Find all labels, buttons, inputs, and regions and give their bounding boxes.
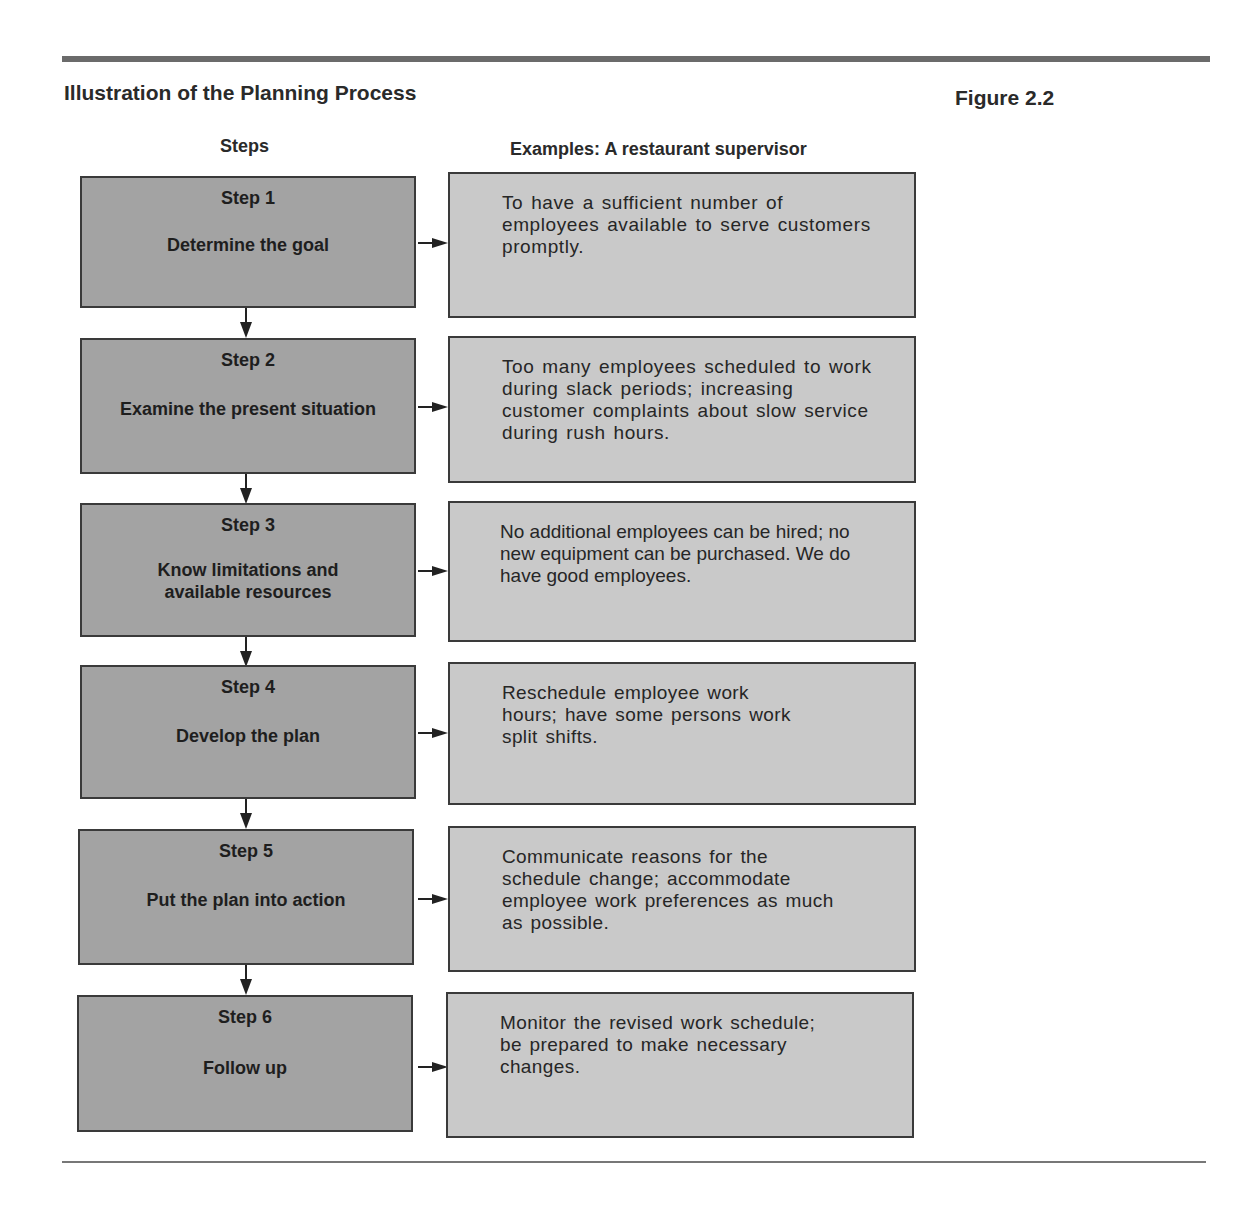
example-text: Communicate reasons for the schedule cha…: [502, 846, 842, 934]
step-label: Put the plan into action: [80, 889, 412, 911]
example-box-1: To have a sufficient number of employees…: [448, 172, 916, 318]
example-box-4: Reschedule employee work hours; have som…: [448, 662, 916, 805]
example-box-6: Monitor the revised work schedule; be pr…: [446, 992, 914, 1138]
bottom-rule: [62, 1161, 1206, 1163]
step-number: Step 3: [82, 515, 414, 536]
example-box-3: No additional employees can be hired; no…: [448, 501, 916, 642]
example-box-2: Too many employees scheduled to work dur…: [448, 336, 916, 483]
arrow-right-icon: [418, 728, 448, 738]
step-label: Determine the goal: [82, 234, 414, 256]
arrow-down-icon: [240, 474, 252, 504]
arrow-right-icon: [418, 238, 448, 248]
steps-column-header: Steps: [220, 136, 269, 157]
step-number: Step 2: [82, 350, 414, 371]
step-label: Examine the present situation: [82, 398, 414, 420]
step-label: Know limitations and available resources: [82, 559, 414, 603]
example-text: Monitor the revised work schedule; be pr…: [500, 1012, 840, 1078]
step-number: Step 1: [82, 188, 414, 209]
arrow-down-icon: [240, 637, 252, 667]
arrow-right-icon: [418, 894, 448, 904]
arrow-right-icon: [418, 1062, 448, 1072]
step-number: Step 5: [80, 841, 412, 862]
example-text: Reschedule employee work hours; have som…: [502, 682, 802, 748]
step-box-1: Step 1 Determine the goal: [80, 176, 416, 308]
step-label: Follow up: [79, 1057, 411, 1079]
example-text: No additional employees can be hired; no…: [500, 521, 870, 587]
arrow-down-icon: [240, 965, 252, 995]
step-box-6: Step 6 Follow up: [77, 995, 413, 1132]
arrow-down-icon: [240, 308, 252, 338]
figure-title: Illustration of the Planning Process: [64, 81, 416, 105]
step-label: Develop the plan: [82, 725, 414, 747]
step-box-4: Step 4 Develop the plan: [80, 665, 416, 799]
step-box-5: Step 5 Put the plan into action: [78, 829, 414, 965]
arrow-right-icon: [418, 402, 448, 412]
arrow-down-icon: [240, 799, 252, 829]
figure-label: Figure 2.2: [955, 86, 1054, 110]
examples-column-header: Examples: A restaurant supervisor: [510, 139, 807, 160]
step-number: Step 6: [79, 1007, 411, 1028]
step-box-3: Step 3 Know limitations and available re…: [80, 503, 416, 637]
step-box-2: Step 2 Examine the present situation: [80, 338, 416, 474]
example-text: To have a sufficient number of employees…: [502, 192, 872, 258]
example-box-5: Communicate reasons for the schedule cha…: [448, 826, 916, 972]
example-text: Too many employees scheduled to work dur…: [502, 356, 872, 444]
arrow-right-icon: [418, 566, 448, 576]
step-number: Step 4: [82, 677, 414, 698]
top-rule: [62, 56, 1210, 62]
